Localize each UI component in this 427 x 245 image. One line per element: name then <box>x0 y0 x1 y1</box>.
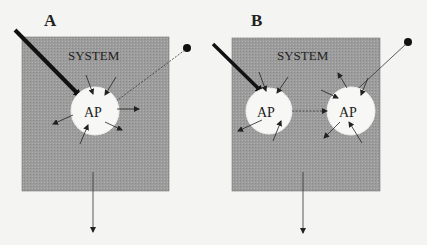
figure: A SYSTEM AP B SYSTEM AP AP <box>0 0 427 245</box>
panel-b-letter: B <box>251 11 262 30</box>
system-label-a: SYSTEM <box>68 48 120 63</box>
panel-a-letter: A <box>44 11 57 30</box>
ap-label-a: AP <box>84 105 102 120</box>
ap-label-b-right: AP <box>339 105 357 120</box>
system-label-b: SYSTEM <box>277 48 329 63</box>
panel-a: A SYSTEM AP <box>15 11 191 232</box>
panel-b: B SYSTEM AP AP <box>213 11 412 233</box>
ap-label-b-left: AP <box>257 105 275 120</box>
